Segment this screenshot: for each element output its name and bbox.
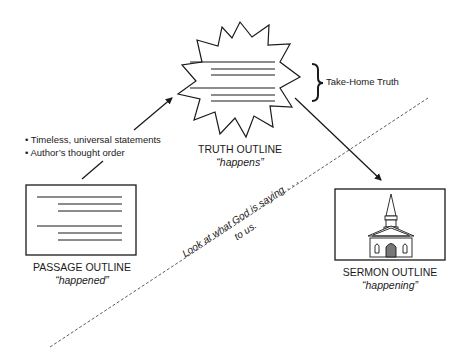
bullet-item: • Timeless, universal statements [25, 133, 161, 146]
arrow-passage-to-truth-lower [82, 161, 103, 179]
arrow-truth-to-sermon [295, 98, 381, 180]
diagram-canvas [0, 0, 466, 357]
passage-outline-box [26, 185, 136, 255]
passage-outline-title: PASSAGE OUTLINE [33, 261, 131, 273]
passage-outline-subtitle: “happened” [55, 274, 109, 286]
sermon-outline-title: SERMON OUTLINE [343, 266, 438, 278]
bullet-item: • Author’s thought order [25, 146, 161, 159]
truth-outline-starburst [178, 22, 300, 137]
bullet-list: • Timeless, universal statements • Autho… [25, 133, 161, 159]
take-home-truth-label: Take-Home Truth [326, 76, 399, 87]
sermon-outline-subtitle: “happening” [362, 279, 418, 291]
truth-outline-subtitle: “happens” [216, 156, 263, 168]
truth-outline-title: TRUTH OUTLINE [198, 143, 282, 155]
take-home-brace-icon [312, 64, 323, 101]
arrow-passage-to-truth-upper [134, 98, 172, 130]
